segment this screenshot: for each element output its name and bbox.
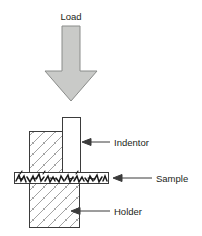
indentor-label: Indentor [114,137,149,148]
indentation-test-diagram: Load Indentor Sample Holder [0,0,202,236]
load-arrow-icon [45,26,97,101]
diagram-canvas: Load Indentor Sample Holder [0,0,202,236]
sample-leader [113,175,152,182]
holder-label: Holder [114,206,142,217]
sample-label: Sample [156,173,188,184]
indentor-group [63,118,81,180]
indentor-leader [82,139,110,146]
load-arrow-group [45,26,97,101]
indentor-bar [63,118,81,180]
holder-leader [71,208,110,215]
load-label: Load [60,11,81,22]
sample-group [15,171,109,184]
